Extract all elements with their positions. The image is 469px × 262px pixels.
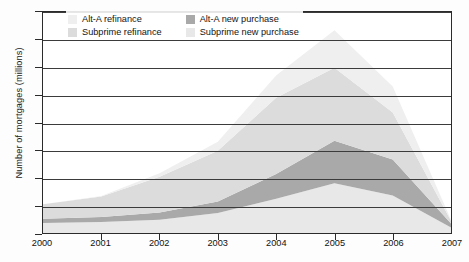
y-tick-mark-0.5 xyxy=(35,206,42,207)
gridline-2.5 xyxy=(43,96,451,97)
plot-area xyxy=(42,11,452,234)
y-tick-mark-1.0 xyxy=(35,178,42,179)
legend-swatch-icon xyxy=(68,15,77,24)
legend-swatch-icon xyxy=(186,15,195,24)
legend-item-alt-a-new-purchase: Alt-A new purchase xyxy=(186,13,299,25)
gridline-0.5 xyxy=(43,207,451,208)
legend-item-subprime-refinance: Subprime refinance xyxy=(68,26,162,38)
legend-swatch-icon xyxy=(186,28,195,37)
legend-label: Alt-A new purchase xyxy=(200,13,279,25)
x-tick-mark-2003 xyxy=(218,234,219,240)
x-tick-mark-2005 xyxy=(335,234,336,240)
legend-label: Alt-A refinance xyxy=(82,13,142,25)
gridline-3.5 xyxy=(43,40,451,41)
gridline-1.0 xyxy=(43,179,451,180)
chart-legend: Alt-A refinanceAlt-A new purchaseSubprim… xyxy=(66,11,303,40)
y-tick-mark-2.0 xyxy=(35,123,42,124)
y-tick-mark-2.5 xyxy=(35,95,42,96)
y-tick-mark-4.0 xyxy=(35,11,42,12)
x-tick-mark-2002 xyxy=(159,234,160,240)
gridline-1.5 xyxy=(43,151,451,152)
chart-figure: Number of mortgages (millions) 00.51.01.… xyxy=(0,0,469,262)
x-tick-mark-2001 xyxy=(101,234,102,240)
y-tick-mark-3.5 xyxy=(35,39,42,40)
y-axis-title: Number of mortgages (millions) xyxy=(14,8,24,218)
y-tick-mark-1.5 xyxy=(35,150,42,151)
gridline-2.0 xyxy=(43,124,451,125)
legend-item-subprime-new-purchase: Subprime new purchase xyxy=(186,26,299,38)
y-tick-mark-0 xyxy=(35,234,42,235)
gridline-3.0 xyxy=(43,68,451,69)
y-tick-mark-3.0 xyxy=(35,67,42,68)
legend-label: Subprime new purchase xyxy=(200,26,299,38)
x-tick-mark-2004 xyxy=(276,234,277,240)
legend-label: Subprime refinance xyxy=(82,26,162,38)
legend-swatch-icon xyxy=(68,28,77,37)
legend-item-alt-a-refinance: Alt-A refinance xyxy=(68,13,162,25)
stacked-area-series-group xyxy=(43,12,451,233)
x-tick-label-2000: 2000 xyxy=(20,238,64,248)
x-tick-mark-2006 xyxy=(393,234,394,240)
x-tick-label-2007: 2007 xyxy=(430,238,469,248)
